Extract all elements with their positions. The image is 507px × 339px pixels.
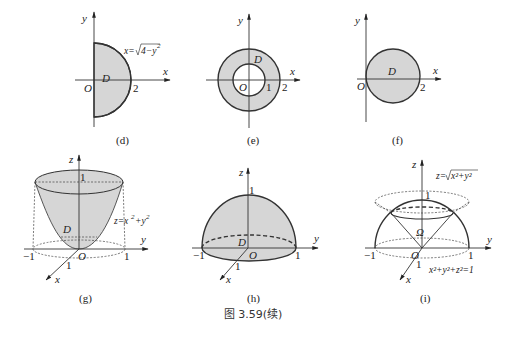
- tick-y-neg-1: −1: [193, 249, 205, 261]
- tick-y-neg-1: −1: [23, 250, 35, 262]
- origin-label: O: [249, 249, 257, 261]
- cone-equation: z= x²+y²: [435, 170, 478, 181]
- region-label: D: [101, 72, 110, 84]
- x-axis-label: x: [225, 273, 231, 285]
- y-axis-label: y: [81, 12, 87, 24]
- figure-i: z y x O Ω 1 −1 1 1 z= x²+y² x²+y²+z²=1 (…: [364, 158, 492, 305]
- y-axis-label: y: [140, 233, 146, 245]
- figure-canvas: y x O D 2 x= 4−y 2 (d) y x O D 1 2 (e) y…: [0, 0, 507, 339]
- x-axis: [46, 249, 79, 280]
- surface-equation: z=x 2 +y 2: [113, 213, 150, 226]
- figure-label-f: (f): [392, 134, 403, 147]
- x-axis-label: x: [162, 65, 168, 77]
- origin-label: O: [357, 80, 365, 92]
- svg-text:z=: z=: [435, 171, 446, 181]
- z-axis-label: z: [68, 153, 74, 165]
- x-axis-label: x: [54, 273, 60, 285]
- y-axis-label: y: [354, 14, 360, 26]
- region-label: D: [253, 53, 262, 65]
- region-label: D: [62, 223, 71, 235]
- figure-caption: 图 3.59(续): [224, 307, 283, 321]
- x-axis-label: x: [405, 273, 411, 285]
- y-axis-label: y: [237, 14, 243, 26]
- svg-text:2: 2: [146, 213, 150, 221]
- tick-x-1: 1: [235, 260, 241, 272]
- svg-text:x²+y²: x²+y²: [450, 171, 472, 181]
- tick-2: 2: [420, 81, 426, 93]
- figure-label-g: (g): [79, 292, 92, 305]
- figure-label-i: (i): [420, 292, 431, 305]
- z-axis-label: z: [411, 158, 417, 170]
- y-axis-label: y: [486, 233, 492, 245]
- tick-2: 2: [282, 81, 288, 93]
- tick-z-1: 1: [249, 184, 255, 196]
- figure-label-e: (e): [247, 134, 260, 147]
- sphere-equation: x²+y²+z²=1: [428, 265, 474, 275]
- x-axis-label: x: [432, 64, 438, 76]
- tick-z-1: 1: [425, 189, 431, 201]
- figure-g: z y x O D 1 −1 1 1 z=x 2 +y 2 (g): [23, 153, 150, 305]
- origin-label: O: [239, 81, 247, 93]
- tick-y-1: 1: [468, 249, 474, 261]
- tick-y-1: 1: [124, 250, 130, 262]
- origin-label: O: [78, 250, 86, 262]
- svg-text:+y: +y: [135, 216, 146, 226]
- z-axis-label: z: [238, 166, 244, 178]
- figure-f: y x O D 2 (f): [354, 14, 441, 147]
- tick-y-1: 1: [295, 249, 301, 261]
- tick-z-1: 1: [80, 171, 86, 183]
- left-projection: [33, 182, 35, 249]
- cone-extension-left: [375, 202, 391, 213]
- svg-text:4−y: 4−y: [141, 46, 157, 56]
- cone-extension-right: [453, 202, 469, 213]
- svg-text:x=: x=: [123, 46, 135, 56]
- figure-label-h: (h): [247, 292, 260, 305]
- tick-2: 2: [133, 82, 139, 94]
- origin-label: O: [84, 82, 92, 94]
- tick-x-1: 1: [416, 258, 422, 270]
- tick-x-1: 1: [66, 259, 72, 271]
- x-axis-label: x: [289, 65, 295, 77]
- curve-equation: x= 4−y 2: [123, 42, 161, 56]
- tick-y-neg-1: −1: [364, 249, 376, 261]
- figure-h: z y x O D 1 −1 1 1 (h): [192, 166, 319, 305]
- tick-1: 1: [266, 81, 272, 93]
- region-label: Ω: [416, 226, 424, 238]
- svg-text:z=x: z=x: [113, 216, 129, 226]
- figure-label-d: (d): [116, 134, 129, 147]
- region-label: D: [387, 65, 396, 77]
- figure-e: y x O D 1 2 (e): [206, 14, 300, 147]
- figure-d: y x O D 2 x= 4−y 2 (d): [75, 12, 170, 147]
- region-label: D: [237, 236, 246, 248]
- svg-text:2: 2: [157, 42, 161, 50]
- y-axis-label: y: [313, 232, 319, 244]
